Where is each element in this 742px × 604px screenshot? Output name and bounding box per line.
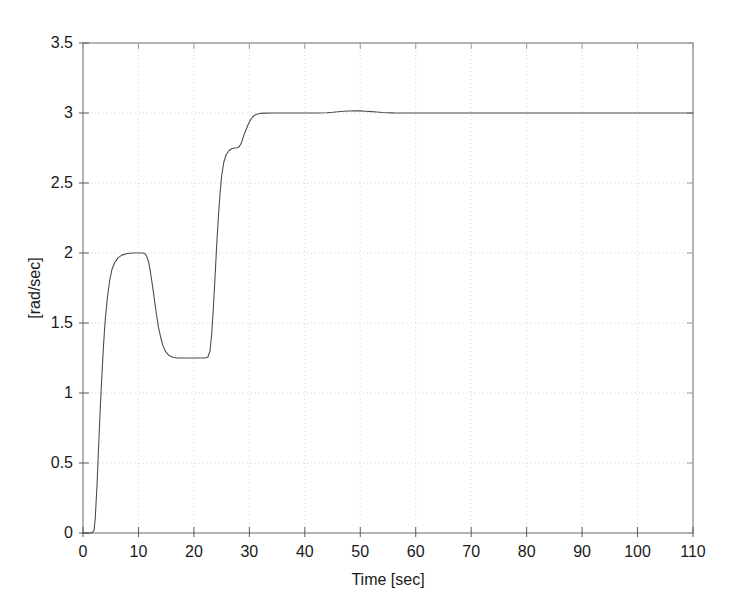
x-tick-label: 60 (407, 543, 425, 561)
figure-canvas: 00.511.522.533.5 01020304050607080901001… (0, 0, 742, 604)
x-tick-label: 100 (624, 543, 651, 561)
x-tick-label: 20 (185, 543, 203, 561)
x-tick-label: 10 (130, 543, 148, 561)
x-tick-label: 40 (296, 543, 314, 561)
x-tick-label: 70 (462, 543, 480, 561)
axes-frame (83, 43, 693, 533)
y-tick-label: 1 (0, 384, 73, 402)
x-tick-label: 0 (79, 543, 88, 561)
x-tick-label: 110 (680, 543, 706, 561)
y-tick-label: 2.5 (0, 174, 73, 192)
line-chart-plot (0, 0, 742, 604)
x-tick-label: 50 (351, 543, 369, 561)
x-axis-label: Time [sec] (351, 571, 424, 589)
x-tick-label: 80 (518, 543, 536, 561)
y-tick-label: 3 (0, 104, 73, 122)
y-tick-label: 0 (0, 524, 73, 542)
y-tick-label: 0.5 (0, 454, 73, 472)
y-axis-label: [rad/sec] (26, 257, 44, 318)
x-tick-label: 30 (240, 543, 258, 561)
data-series (83, 111, 693, 533)
x-tick-label: 90 (573, 543, 591, 561)
gridlines (83, 43, 693, 533)
y-tick-label: 3.5 (0, 34, 73, 52)
